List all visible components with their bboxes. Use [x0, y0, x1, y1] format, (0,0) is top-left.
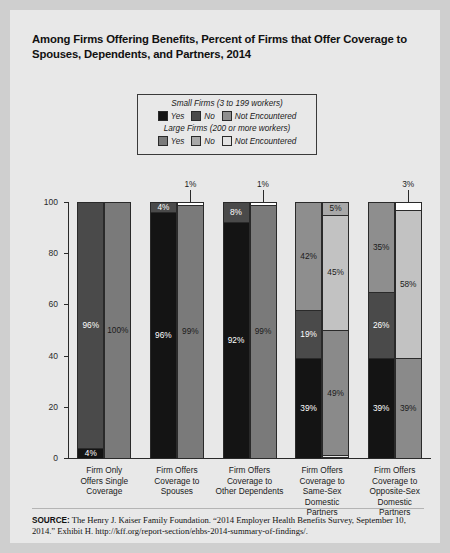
bar-callout-leader-line: [263, 190, 264, 202]
x-axis-category-label: Firm OnlyOffers SingleCoverage: [70, 465, 139, 497]
bar-value-label: 45%: [327, 268, 344, 277]
bar-value-label: 92%: [228, 336, 245, 345]
bar-value-label: 42%: [300, 252, 317, 261]
legend-row-large: Yes No Not Encountered: [143, 136, 311, 146]
bar-segment-small-not-encountered-group-4[interactable]: 42%: [296, 203, 321, 311]
bar-segment-large-not-encountered-group-3[interactable]: [251, 203, 276, 206]
source-prefix: SOURCE:: [32, 516, 70, 525]
bar-small-group-3[interactable]: 8%92%: [223, 202, 250, 458]
legend-item-large-yes[interactable]: Yes: [158, 136, 185, 146]
y-tick-label: 80: [36, 248, 58, 258]
bar-value-label: 8%: [230, 208, 242, 217]
bar-segment-large-yes-group-4[interactable]: 49%: [323, 331, 348, 456]
legend-item-small-not-encountered[interactable]: Not Encountered: [222, 111, 296, 121]
legend-label-large-no: No: [204, 137, 214, 146]
legend-label-small-yes: Yes: [171, 112, 185, 121]
bar-segment-small-no-group-1[interactable]: 96%: [78, 203, 103, 449]
bar-value-label: 4%: [157, 203, 169, 212]
x-axis-category-label: Firm OffersCoverage toOther Dependents: [215, 465, 284, 497]
bar-value-label: 96%: [155, 331, 172, 340]
legend-heading-small: Small Firms (3 to 199 workers): [143, 99, 311, 109]
legend-swatch-large-yes: [158, 136, 168, 146]
x-axis-category-label: Firm OffersCoverage toSpouses: [143, 465, 212, 497]
source-text: The Henry J. Kaiser Family Foundation. “…: [32, 515, 406, 536]
legend-label-large-not-encountered: Not Encountered: [235, 137, 296, 146]
bar-callout-label: 1%: [249, 180, 277, 189]
y-tick-mark: [64, 253, 68, 254]
bar-segment-large-no-group-5[interactable]: 58%: [396, 211, 421, 359]
bar-value-label: 35%: [373, 243, 390, 252]
bar-callout-leader-line: [408, 190, 409, 202]
bar-segment-small-no-group-2[interactable]: 4%: [151, 203, 176, 213]
y-axis-line: [68, 202, 69, 459]
legend-heading-large: Large Firms (200 or more workers): [143, 124, 311, 134]
bar-value-label: 26%: [373, 321, 390, 330]
source-note: SOURCE: The Henry J. Kaiser Family Found…: [32, 515, 424, 537]
chart-legend: Small Firms (3 to 199 workers) Yes No No…: [137, 94, 317, 155]
bar-large-group-4[interactable]: 5%45%49%: [322, 202, 349, 458]
bar-large-group-2[interactable]: 99%: [177, 202, 204, 458]
bar-segment-small-yes-group-2[interactable]: 96%: [151, 213, 176, 459]
legend-swatch-small-not-encountered: [222, 111, 232, 121]
legend-row-small: Yes No Not Encountered: [143, 111, 311, 121]
bar-segment-small-not-encountered-group-5[interactable]: 35%: [369, 203, 394, 293]
legend-item-large-no[interactable]: No: [191, 136, 214, 146]
bar-segment-small-yes-group-4[interactable]: 39%: [296, 359, 321, 459]
y-tick-mark: [64, 304, 68, 305]
bar-small-group-1[interactable]: 96%4%: [77, 202, 104, 458]
bar-segment-large-not-encountered-group-4[interactable]: 5%: [323, 203, 348, 216]
legend-swatch-small-yes: [158, 111, 168, 121]
bar-large-group-1[interactable]: 100%: [104, 202, 131, 458]
legend-label-small-no: No: [204, 112, 214, 121]
bar-small-group-4[interactable]: 42%19%39%: [295, 202, 322, 458]
bar-segment-large-yes-group-3[interactable]: 99%: [251, 206, 276, 459]
legend-item-small-no[interactable]: No: [191, 111, 214, 121]
bar-value-label: 99%: [182, 327, 199, 336]
bar-value-label: 19%: [300, 330, 317, 339]
legend-swatch-small-no: [191, 111, 201, 121]
bar-segment-large-yes-group-1[interactable]: 100%: [105, 203, 130, 459]
bar-segment-small-no-group-4[interactable]: 19%: [296, 311, 321, 360]
y-tick-label: 60: [36, 299, 58, 309]
page-title: Among Firms Offering Benefits, Percent o…: [32, 32, 424, 62]
bar-segment-large-no-group-4[interactable]: 45%: [323, 216, 348, 331]
bar-value-label: 58%: [400, 280, 417, 289]
bar-callout-leader-line: [190, 190, 191, 202]
y-tick-mark: [64, 458, 68, 459]
bar-segment-large-not-encountered-group-5[interactable]: [396, 203, 421, 211]
y-tick-mark: [64, 202, 68, 203]
bar-large-group-3[interactable]: 99%: [250, 202, 277, 458]
x-axis-category-label: Firm OffersCoverage toSame-SexDomesticPa…: [288, 465, 357, 518]
bar-value-label: 100%: [107, 326, 128, 335]
bar-segment-small-no-group-5[interactable]: 26%: [369, 293, 394, 360]
bar-small-group-5[interactable]: 35%26%39%: [368, 202, 395, 458]
bar-segment-large-yes-group-2[interactable]: 99%: [178, 206, 203, 459]
legend-item-large-not-encountered[interactable]: Not Encountered: [222, 136, 296, 146]
x-axis-line: [68, 458, 431, 459]
bar-segment-large-not-encountered-group-2[interactable]: [178, 203, 203, 206]
bar-value-label: 39%: [373, 404, 390, 413]
legend-swatch-large-no: [191, 136, 201, 146]
bar-small-group-2[interactable]: 4%96%: [150, 202, 177, 458]
bar-segment-small-yes-group-1[interactable]: 4%: [78, 449, 103, 459]
source-divider: [32, 508, 424, 509]
bar-value-label: 4%: [85, 449, 97, 458]
bar-value-label: 99%: [255, 327, 272, 336]
y-tick-label: 0: [36, 453, 58, 463]
bar-callout-label: 1%: [176, 180, 204, 189]
bar-value-label: 49%: [327, 389, 344, 398]
bar-segment-large-yes-group-5[interactable]: 39%: [396, 359, 421, 459]
bar-segment-small-yes-group-5[interactable]: 39%: [369, 359, 394, 459]
legend-label-large-yes: Yes: [171, 137, 185, 146]
bar-callout-label: 3%: [394, 180, 422, 189]
bar-value-label: 39%: [400, 404, 417, 413]
bar-chart-plot: 02040608010096%4%100%Firm OnlyOffers Sin…: [10, 10, 440, 543]
legend-swatch-large-not-encountered: [222, 136, 232, 146]
y-tick-mark: [64, 356, 68, 357]
legend-item-small-yes[interactable]: Yes: [158, 111, 185, 121]
x-axis-category-label: Firm OffersCoverage toOpposite-SexDomest…: [360, 465, 429, 518]
bar-large-group-5[interactable]: 58%39%: [395, 202, 422, 458]
bar-segment-small-no-group-3[interactable]: 8%: [224, 203, 249, 223]
y-tick-mark: [64, 407, 68, 408]
bar-segment-small-yes-group-3[interactable]: 92%: [224, 223, 249, 459]
